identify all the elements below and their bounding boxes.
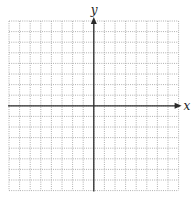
y-axis-label: y [90, 3, 98, 17]
axes [8, 17, 182, 192]
x-axis-label: x [184, 99, 191, 113]
y-axis-arrow-icon [91, 17, 97, 24]
coordinate-plane: x y [0, 0, 196, 202]
x-axis-arrow-icon [175, 103, 182, 109]
